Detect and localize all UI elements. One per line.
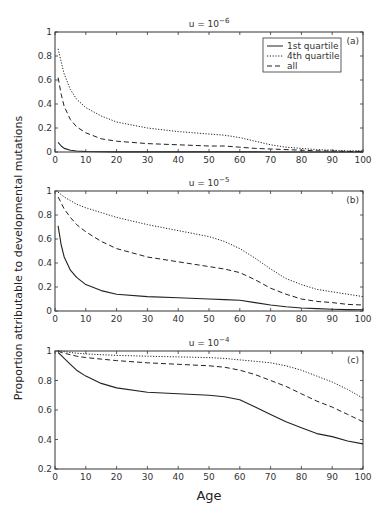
- x-tick-label: 20: [111, 472, 123, 482]
- y-tick-label: 0.8: [38, 376, 53, 386]
- x-tick-label: 100: [354, 314, 371, 324]
- plot-frame: [55, 191, 363, 311]
- x-tick-label: 30: [142, 155, 154, 165]
- x-tick-label: 100: [354, 155, 371, 165]
- x-tick-label: 40: [172, 472, 184, 482]
- y-tick-label: 0.4: [38, 435, 53, 445]
- panel-title: u = 10−5: [189, 176, 230, 188]
- x-tick-label: 30: [142, 314, 154, 324]
- x-tick-label: 90: [326, 155, 338, 165]
- figure-canvas: 010203040506070809010000.20.40.60.81u = …: [0, 0, 384, 521]
- x-tick-label: 60: [234, 472, 246, 482]
- x-tick-label: 80: [296, 314, 308, 324]
- y-tick-label: 0.6: [38, 75, 53, 85]
- y-tick-label: 0.8: [38, 210, 53, 220]
- panel-letter: (c): [347, 355, 359, 365]
- legend-label: 4th quartile: [287, 51, 340, 61]
- panel-letter: (b): [346, 195, 359, 205]
- panel-title: u = 10−6: [189, 17, 230, 29]
- legend-label: all: [287, 61, 298, 71]
- panel-title: u = 10−4: [189, 336, 230, 348]
- y-tick-label: 0.4: [38, 258, 53, 268]
- x-tick-label: 50: [203, 472, 215, 482]
- x-tick-label: 70: [265, 155, 277, 165]
- series-line-4th-quartile: [58, 351, 363, 398]
- series-line-all: [58, 351, 363, 422]
- y-tick-label: 1: [46, 186, 52, 196]
- x-tick-label: 20: [111, 314, 123, 324]
- y-tick-label: 0.8: [38, 51, 53, 61]
- y-tick-label: 1: [46, 346, 52, 356]
- x-tick-label: 60: [234, 314, 246, 324]
- x-tick-label: 50: [203, 155, 215, 165]
- x-tick-label: 40: [172, 314, 184, 324]
- y-tick-label: 0.2: [38, 464, 52, 474]
- y-tick-label: 0.6: [38, 405, 53, 415]
- panel-letter: (a): [346, 36, 359, 46]
- panel-b: 010203040506070809010000.20.40.60.81u = …: [38, 176, 372, 324]
- y-axis-label: Proportion attributable to developmental…: [12, 116, 25, 401]
- x-tick-label: 100: [354, 472, 371, 482]
- y-tick-label: 0.4: [38, 99, 53, 109]
- x-tick-label: 80: [296, 472, 308, 482]
- x-tick-label: 30: [142, 472, 154, 482]
- x-tick-label: 80: [296, 155, 308, 165]
- x-tick-label: 10: [80, 155, 92, 165]
- y-tick-label: 0.2: [38, 123, 52, 133]
- x-tick-label: 0: [52, 314, 58, 324]
- plot-frame: [55, 351, 363, 469]
- y-tick-label: 0: [46, 147, 52, 157]
- x-tick-label: 0: [52, 472, 58, 482]
- series-line-all: [58, 78, 363, 152]
- series-line-1st-quartile: [58, 226, 363, 310]
- y-tick-label: 0.2: [38, 282, 52, 292]
- legend: 1st quartile4th quartileall: [263, 38, 341, 72]
- series-line-4th-quartile: [58, 192, 363, 296]
- x-tick-label: 60: [234, 155, 246, 165]
- y-tick-label: 1: [46, 27, 52, 37]
- y-tick-label: 0: [46, 306, 52, 316]
- legend-label: 1st quartile: [287, 41, 339, 51]
- x-tick-label: 10: [80, 472, 92, 482]
- x-tick-label: 70: [265, 472, 277, 482]
- x-tick-label: 50: [203, 314, 215, 324]
- x-tick-label: 70: [265, 314, 277, 324]
- y-tick-label: 0.6: [38, 234, 53, 244]
- x-tick-label: 0: [52, 155, 58, 165]
- panel-c: 01020304050607080901000.20.40.60.81u = 1…: [38, 336, 372, 482]
- x-tick-label: 90: [326, 472, 338, 482]
- x-tick-label: 40: [172, 155, 184, 165]
- x-tick-label: 20: [111, 155, 123, 165]
- x-axis-label: Age: [196, 488, 221, 503]
- x-tick-label: 90: [326, 314, 338, 324]
- x-tick-label: 10: [80, 314, 92, 324]
